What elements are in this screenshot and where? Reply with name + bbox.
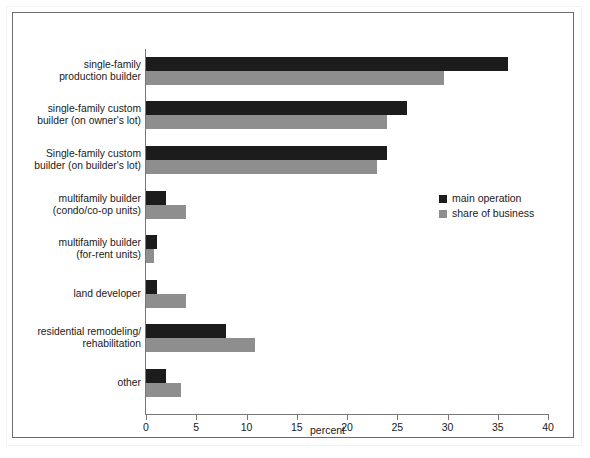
x-tick-mark <box>297 415 298 420</box>
bar-main-operation <box>146 57 508 71</box>
bar-share-of-business <box>146 338 255 352</box>
bar-main-operation <box>146 369 166 383</box>
bar-share-of-business <box>146 115 387 129</box>
bar-main-operation <box>146 324 226 338</box>
legend-item: main operation <box>439 191 534 206</box>
x-tick-mark <box>146 415 147 420</box>
chart-page: single-family production builder single-… <box>0 0 590 458</box>
bar-share-of-business <box>146 71 444 85</box>
category-label: single-family production builder <box>23 59 141 82</box>
category-label: land developer <box>23 288 141 300</box>
category-label: residential remodeling/ rehabilitation <box>23 326 141 349</box>
legend-swatch-icon <box>439 195 447 203</box>
bar-main-operation <box>146 191 166 205</box>
bar-share-of-business <box>146 205 186 219</box>
category-label: Single-family custom builder (on builder… <box>23 148 141 171</box>
x-tick-mark <box>548 415 549 420</box>
bar-main-operation <box>146 280 157 294</box>
x-tick-mark <box>196 415 197 420</box>
category-label: other <box>23 377 141 389</box>
x-axis-title: percent <box>0 424 590 436</box>
chart-frame: single-family production builder single-… <box>12 12 574 438</box>
bar-share-of-business <box>146 383 181 397</box>
bar-main-operation <box>146 146 387 160</box>
bar-main-operation <box>146 235 157 249</box>
category-label: single-family custom builder (on owner's… <box>23 103 141 126</box>
x-tick-mark <box>347 415 348 420</box>
legend-label: main operation <box>452 191 521 206</box>
chart-legend: main operation share of business <box>439 191 534 221</box>
category-labels: single-family production builder single-… <box>21 13 141 378</box>
x-tick-mark <box>448 415 449 420</box>
legend-item: share of business <box>439 206 534 221</box>
legend-label: share of business <box>452 206 534 221</box>
bar-share-of-business <box>146 294 186 308</box>
category-label: multifamily builder (condo/co-op units) <box>23 193 141 216</box>
bar-share-of-business <box>146 160 377 174</box>
bar-share-of-business <box>146 249 154 263</box>
category-label: multifamily builder (for-rent units) <box>23 237 141 260</box>
x-tick-mark <box>498 415 499 420</box>
x-tick-mark <box>247 415 248 420</box>
bar-main-operation <box>146 101 407 115</box>
legend-swatch-icon <box>439 210 447 218</box>
x-tick-mark <box>397 415 398 420</box>
